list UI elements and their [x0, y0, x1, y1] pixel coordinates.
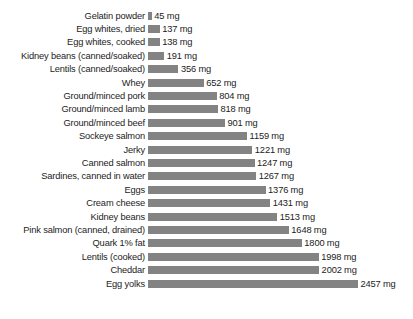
- chart-row: Sockeye salmon1159 mg: [0, 130, 413, 143]
- chart-row: Gelatin powder45 mg: [0, 9, 413, 22]
- bar: [148, 239, 302, 247]
- bar-area: 138 mg: [148, 36, 413, 49]
- value-label: 1376 mg: [266, 185, 304, 195]
- bar-area: 1376 mg: [148, 183, 413, 196]
- value-label: 45 mg: [152, 11, 180, 21]
- category-label: Egg yolks: [0, 279, 148, 289]
- bar-area: 1648 mg: [148, 223, 413, 236]
- category-label: Whey: [0, 78, 148, 88]
- chart-row: Cheddar2002 mg: [0, 263, 413, 276]
- bar-area: 356 mg: [148, 63, 413, 76]
- bar: [148, 65, 178, 73]
- bar-area: 1998 mg: [148, 250, 413, 263]
- bar: [148, 199, 270, 207]
- horizontal-bar-chart: Gelatin powder45 mgEgg whites, dried137 …: [0, 9, 413, 290]
- value-label: 818 mg: [218, 104, 251, 114]
- bar: [148, 132, 247, 140]
- value-label: 1513 mg: [277, 212, 315, 222]
- bar: [148, 119, 225, 127]
- bar-area: 804 mg: [148, 89, 413, 102]
- category-label: Jerky: [0, 145, 148, 155]
- value-label: 1267 mg: [256, 171, 294, 181]
- chart-row: Lentils (canned/soaked)356 mg: [0, 63, 413, 76]
- chart-row: Eggs1376 mg: [0, 183, 413, 196]
- bar: [148, 253, 319, 261]
- category-label: Ground/minced lamb: [0, 104, 148, 114]
- value-label: 1221 mg: [252, 145, 290, 155]
- category-label: Egg whites, dried: [0, 24, 148, 34]
- chart-row: Egg yolks2457 mg: [0, 277, 413, 290]
- bar-area: 1159 mg: [148, 130, 413, 143]
- bar: [148, 92, 217, 100]
- chart-row: Egg whites, dried137 mg: [0, 22, 413, 35]
- value-label: 138 mg: [160, 37, 193, 47]
- value-label: 356 mg: [178, 64, 211, 74]
- value-label: 901 mg: [225, 118, 258, 128]
- bar: [148, 266, 319, 274]
- chart-row: Egg whites, cooked138 mg: [0, 36, 413, 49]
- category-label: Pink salmon (canned, drained): [0, 225, 148, 235]
- chart-row: Jerky1221 mg: [0, 143, 413, 156]
- bar: [148, 146, 252, 154]
- value-label: 2002 mg: [319, 265, 357, 275]
- category-label: Egg whites, cooked: [0, 37, 148, 47]
- chart-row: Pink salmon (canned, drained)1648 mg: [0, 223, 413, 236]
- bar-area: 818 mg: [148, 103, 413, 116]
- category-label: Ground/minced beef: [0, 118, 148, 128]
- chart-row: Whey652 mg: [0, 76, 413, 89]
- value-label: 1159 mg: [247, 131, 284, 141]
- category-label: Cheddar: [0, 265, 148, 275]
- category-label: Kidney beans: [0, 212, 148, 222]
- value-label: 1998 mg: [319, 252, 357, 262]
- value-label: 1800 mg: [302, 238, 340, 248]
- chart-row: Cream cheese1431 mg: [0, 196, 413, 209]
- value-label: 1247 mg: [255, 158, 293, 168]
- value-label: 2457 mg: [358, 279, 396, 289]
- bar: [148, 79, 204, 87]
- chart-row: Canned salmon1247 mg: [0, 156, 413, 169]
- value-label: 804 mg: [217, 91, 250, 101]
- category-label: Sockeye salmon: [0, 131, 148, 141]
- value-label: 1648 mg: [289, 225, 327, 235]
- bar: [148, 25, 160, 33]
- bar-area: 1431 mg: [148, 196, 413, 209]
- bar-area: 2002 mg: [148, 263, 413, 276]
- bar-area: 1267 mg: [148, 170, 413, 183]
- chart-row: Kidney beans1513 mg: [0, 210, 413, 223]
- bar-area: 1247 mg: [148, 156, 413, 169]
- bar: [148, 105, 218, 113]
- bar: [148, 186, 266, 194]
- chart-row: Lentils (cooked)1998 mg: [0, 250, 413, 263]
- value-label: 191 mg: [164, 51, 197, 61]
- category-label: Eggs: [0, 185, 148, 195]
- category-label: Lentils (canned/soaked): [0, 64, 148, 74]
- bar: [148, 159, 255, 167]
- category-label: Lentils (cooked): [0, 252, 148, 262]
- bar: [148, 226, 289, 234]
- bar-area: 191 mg: [148, 49, 413, 62]
- chart-row: Kidney beans (canned/soaked)191 mg: [0, 49, 413, 62]
- bar-area: 2457 mg: [148, 277, 413, 290]
- bar: [148, 52, 164, 60]
- chart-row: Sardines, canned in water1267 mg: [0, 170, 413, 183]
- value-label: 652 mg: [204, 78, 237, 88]
- bar-area: 1221 mg: [148, 143, 413, 156]
- category-label: Quark 1% fat: [0, 238, 148, 248]
- bar-area: 1513 mg: [148, 210, 413, 223]
- bar: [148, 213, 277, 221]
- category-label: Canned salmon: [0, 158, 148, 168]
- bar-area: 45 mg: [148, 9, 413, 22]
- category-label: Kidney beans (canned/soaked): [0, 51, 148, 61]
- chart-row: Ground/minced beef901 mg: [0, 116, 413, 129]
- category-label: Sardines, canned in water: [0, 171, 148, 181]
- category-label: Cream cheese: [0, 198, 148, 208]
- bar-area: 137 mg: [148, 22, 413, 35]
- bar-area: 1800 mg: [148, 237, 413, 250]
- chart-row: Ground/minced pork804 mg: [0, 89, 413, 102]
- category-label: Gelatin powder: [0, 11, 148, 21]
- value-label: 137 mg: [160, 24, 193, 34]
- bar-area: 901 mg: [148, 116, 413, 129]
- bar: [148, 280, 358, 288]
- bar-area: 652 mg: [148, 76, 413, 89]
- chart-row: Ground/minced lamb818 mg: [0, 103, 413, 116]
